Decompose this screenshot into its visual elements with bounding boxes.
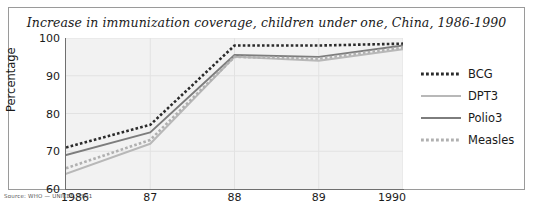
y-axis-line — [65, 38, 66, 190]
plot-svg — [66, 38, 403, 189]
x-tick-88: 88 — [228, 191, 242, 204]
legend-swatch-polio3-icon — [421, 113, 461, 123]
y-tick-90: 90 — [46, 69, 60, 82]
legend-label-bcg: BCG — [468, 67, 493, 81]
y-tick-100: 100 — [39, 32, 60, 45]
figure-frame: Increase in immunization coverage, child… — [8, 7, 525, 190]
chart-title: Increase in immunization coverage, child… — [9, 15, 524, 30]
y-tick-70: 70 — [46, 145, 60, 158]
legend-item-dpt3[interactable]: DPT3 — [421, 85, 525, 107]
legend-swatch-dpt3-icon — [421, 91, 461, 101]
legend-swatch-measles-icon — [421, 135, 461, 145]
legend-swatch-bcg-icon — [421, 69, 461, 79]
x-tick-87: 87 — [143, 191, 157, 204]
legend-label-dpt3: DPT3 — [468, 89, 498, 103]
y-tick-80: 80 — [46, 107, 60, 120]
x-axis-tick-labels: 19868788891990 — [66, 191, 403, 204]
y-axis-label: Percentage — [4, 47, 18, 112]
x-tick-89: 89 — [312, 191, 326, 204]
legend-label-measles: Measles — [468, 133, 514, 147]
legend-label-polio3: Polio3 — [468, 111, 502, 125]
source-note: Source: WHO — UNICEF, 1991 — [4, 193, 92, 199]
legend-item-bcg[interactable]: BCG — [421, 63, 525, 85]
gridlines — [66, 38, 403, 189]
legend-item-measles[interactable]: Measles — [421, 129, 525, 151]
chart-legend: BCGDPT3Polio3Measles — [421, 63, 525, 151]
plot-area — [66, 38, 403, 189]
legend-item-polio3[interactable]: Polio3 — [421, 107, 525, 129]
x-axis-line — [65, 189, 404, 190]
x-tick-1990: 1990 — [378, 191, 406, 204]
